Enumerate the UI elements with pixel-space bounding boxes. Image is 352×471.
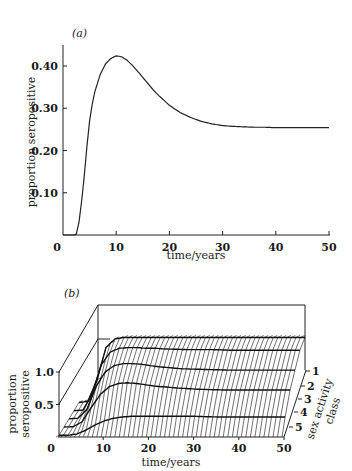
panel-a-x-axis-label: time/years	[167, 249, 226, 262]
z-tick-label: 0.5	[35, 399, 54, 412]
x-tick-label: 10	[96, 442, 112, 455]
class-tick-label: 4	[300, 406, 308, 419]
y-tick-label: 0.40	[31, 60, 58, 73]
panel-b-surface-chart: (b) 01020304050 0.51.0 12345 time/years …	[6, 287, 343, 469]
z-tick-label: 1.0	[35, 366, 54, 379]
x-tick-label: 0	[47, 442, 55, 455]
x-tick-label: 30	[186, 442, 202, 455]
class-tick-label: 2	[307, 380, 315, 393]
x-tick-label: 40	[231, 442, 247, 455]
panel-a-y-axis-label: proportion seropositive	[25, 77, 38, 208]
x-tick-label: 20	[141, 442, 157, 455]
x-tick-label: 50	[321, 241, 337, 254]
surface-hatch-line	[79, 362, 106, 438]
panel-b-y-axis-label-line2: seropositive	[19, 370, 32, 438]
class-tick-label: 5	[295, 421, 303, 434]
class-tick-label: 1	[312, 365, 320, 378]
x-tick-label: 50	[276, 442, 292, 455]
figure: (a) 0.100.200.300.40 01020304050 time/ye…	[0, 0, 352, 471]
surface-hatch-line	[119, 336, 146, 438]
panel-b-x-ticks: 01020304050	[47, 437, 292, 455]
surface-hatch-line	[124, 336, 151, 438]
class-tick-label: 3	[304, 393, 312, 406]
panel-b-label: (b)	[64, 287, 80, 300]
x-tick-label: 0	[53, 241, 61, 254]
diag-1-0	[59, 305, 98, 372]
panel-a-data-curve	[63, 56, 329, 235]
panel-b-x-axis-label: time/years	[142, 456, 201, 469]
panel-a-line-chart: (a) 0.100.200.300.40 01020304050 time/ye…	[25, 27, 337, 262]
panel-b-y-axis-label-line1: proportion	[6, 374, 19, 434]
x-tick-label: 10	[109, 241, 125, 254]
class-ridge-2	[74, 348, 300, 411]
panel-b-z-ticks: 0.51.0	[35, 366, 60, 412]
x-tick-label: 40	[268, 241, 284, 254]
panel-a-label: (a)	[72, 27, 87, 40]
